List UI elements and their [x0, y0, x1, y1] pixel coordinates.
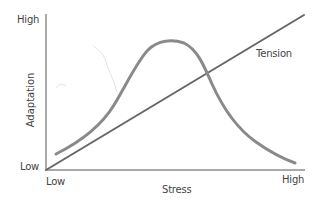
tension-label: Tension: [256, 49, 292, 59]
stray-mark: [93, 46, 117, 92]
y-axis-title: Adaptation: [26, 73, 36, 128]
y-tick-high: High: [17, 15, 39, 25]
y-tick-low: Low: [20, 162, 39, 172]
adaptation-curve: [56, 41, 295, 163]
x-axis-title: Stress: [162, 185, 192, 195]
x-tick-high: High: [282, 175, 304, 185]
x-tick-low: Low: [46, 177, 65, 187]
stray-mark: [56, 84, 66, 88]
stress-adaptation-diagram: High Low Adaptation Low High Stress Tens…: [0, 0, 328, 208]
